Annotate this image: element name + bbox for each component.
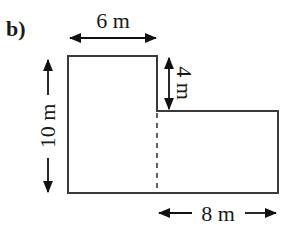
dimension-left-height: 10 m [35,60,60,192]
dimension-label-top: 6 m [96,8,130,33]
l-shape-diagram: b) 6 m 10 m 4 m 8 m [0,0,298,235]
dimension-label-step: 4 m [172,66,197,100]
dimension-bottom-width: 8 m [159,201,276,226]
dimension-top-width: 6 m [70,8,156,38]
part-label: b) [6,16,26,41]
dimension-label-left: 10 m [35,104,60,149]
dimension-step-height: 4 m [169,58,197,109]
dimension-label-bottom: 8 m [201,201,235,226]
